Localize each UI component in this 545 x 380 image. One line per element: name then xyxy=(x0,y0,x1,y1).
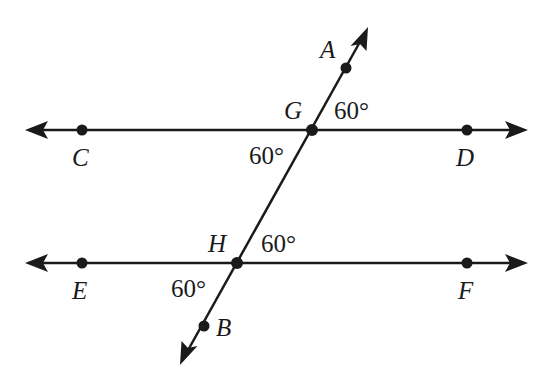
arrowhead-down-icon xyxy=(180,341,198,365)
arrowhead-up-icon xyxy=(351,27,369,51)
point-H xyxy=(231,257,243,269)
label-D: D xyxy=(455,144,474,171)
label-F: F xyxy=(457,277,474,304)
point-G xyxy=(306,124,318,136)
transversal-AB xyxy=(180,27,368,365)
point-A xyxy=(341,63,352,74)
label-G: G xyxy=(284,97,302,124)
label-B: B xyxy=(216,314,231,341)
label-A: A xyxy=(318,36,336,63)
angle-label-G-lower: 60° xyxy=(249,142,284,169)
angle-label-H-lower: 60° xyxy=(171,275,206,302)
point-B xyxy=(199,321,210,332)
angle-label-H-upper: 60° xyxy=(261,230,296,257)
label-H: H xyxy=(207,230,228,257)
point-E xyxy=(77,258,88,269)
label-E: E xyxy=(71,277,87,304)
point-F xyxy=(462,258,473,269)
point-D xyxy=(462,125,473,136)
label-C: C xyxy=(72,144,89,171)
geometry-diagram: A G C D H E F B 60° 60° 60° 60° xyxy=(0,0,545,380)
point-C xyxy=(77,125,88,136)
line-CD xyxy=(25,121,528,139)
angle-label-G-upper: 60° xyxy=(334,97,369,124)
